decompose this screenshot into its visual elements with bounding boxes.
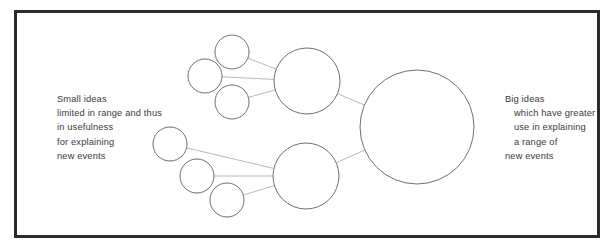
medium-idea-lower xyxy=(273,143,339,209)
nodes-layer xyxy=(153,35,474,217)
big-ideas-caption: Big ideaswhich have greateruse in explai… xyxy=(505,92,595,163)
small-idea-upper-left xyxy=(188,59,222,93)
small-ideas-caption: Small ideaslimited in range and thusin u… xyxy=(57,92,162,163)
small-ideas-caption-line-5: new events xyxy=(57,149,162,163)
link-upper-medium-to-big xyxy=(337,94,364,105)
link-upper-left-to-medium xyxy=(222,77,274,80)
link-upper-top-to-medium xyxy=(248,58,276,69)
small-ideas-caption-line-3: in usefulness xyxy=(57,120,162,134)
medium-idea-upper xyxy=(274,48,340,114)
small-ideas-caption-line-4: for explaining xyxy=(57,135,162,149)
big-ideas-caption-line-2: which have greater xyxy=(505,106,595,120)
big-ideas-caption-line-3: use in explaining xyxy=(505,120,595,134)
small-idea-lower-bottom xyxy=(210,183,244,217)
big-ideas-caption-line-1: Big ideas xyxy=(505,92,595,106)
figure-root: Small ideaslimited in range and thusin u… xyxy=(0,0,613,248)
small-idea-upper-top xyxy=(215,35,249,69)
big-ideas-caption-line-5: new events xyxy=(505,149,595,163)
big-idea xyxy=(360,70,474,184)
small-idea-upper-bottom xyxy=(215,85,249,119)
link-lower-bottom-to-medium xyxy=(243,186,274,195)
small-ideas-caption-line-1: Small ideas xyxy=(57,92,162,106)
link-lower-medium-to-big xyxy=(336,150,365,163)
small-idea-lower-middle xyxy=(180,159,214,193)
small-ideas-caption-line-2: limited in range and thus xyxy=(57,106,162,120)
link-upper-bottom-to-medium xyxy=(248,90,275,98)
big-ideas-caption-line-4: a range of xyxy=(505,135,595,149)
